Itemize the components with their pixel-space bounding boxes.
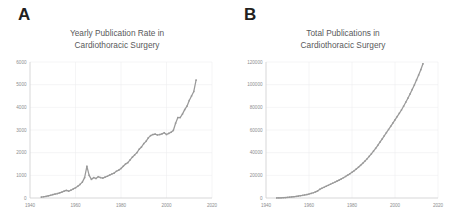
data-point-marker [116, 171, 118, 173]
data-point-marker [328, 185, 330, 187]
x-axis-tick-label: 2020 [433, 203, 444, 208]
data-point-marker [345, 176, 347, 178]
data-point-marker [399, 113, 401, 115]
data-point-marker [313, 192, 315, 194]
data-point-marker [166, 134, 168, 136]
data-point-marker [317, 190, 319, 192]
data-point-marker [163, 132, 165, 134]
data-point-marker [68, 190, 70, 192]
data-point-marker [154, 133, 156, 135]
data-point-marker [161, 133, 163, 135]
data-point-marker [293, 196, 295, 198]
data-point-marker [394, 119, 396, 121]
data-point-marker [88, 175, 90, 177]
data-point-marker [371, 153, 373, 155]
x-axis-tick-label: 1940 [261, 203, 272, 208]
y-axis-tick-label: 20000 [250, 173, 263, 178]
data-point-marker [104, 176, 106, 178]
data-point-marker [323, 187, 325, 189]
data-point-marker [349, 173, 351, 175]
data-point-marker [72, 188, 74, 190]
data-point-marker [61, 191, 63, 193]
y-axis-tick-label: 4000 [16, 105, 27, 110]
data-point-marker [184, 109, 186, 111]
y-axis-tick-label: 100000 [247, 82, 263, 87]
data-point-marker [102, 177, 104, 179]
data-point-marker [366, 158, 368, 160]
data-point-marker [148, 137, 150, 139]
data-point-marker [368, 156, 370, 158]
data-point-marker [306, 194, 308, 196]
chart-title-a-line2: Cardiothoracic Surgery [28, 39, 206, 51]
y-axis-tick-label: 120000 [247, 60, 263, 65]
data-point-marker [315, 191, 317, 193]
data-point-marker [291, 196, 293, 198]
data-point-marker [418, 74, 420, 76]
data-point-marker [409, 93, 411, 95]
data-point-marker [304, 194, 306, 196]
data-point-marker [66, 190, 68, 192]
data-point-marker [120, 168, 122, 170]
y-axis-tick-label: 1000 [16, 173, 27, 178]
data-point-marker [47, 195, 49, 197]
data-point-marker [159, 134, 161, 136]
data-point-marker [381, 138, 383, 140]
data-point-marker [70, 189, 72, 191]
data-point-marker [411, 89, 413, 91]
data-point-marker [379, 141, 381, 143]
chart-plot-b: 0200004000060000800001000001200001940196… [226, 52, 452, 220]
data-point-marker [278, 197, 280, 199]
data-point-marker [416, 79, 418, 81]
data-point-marker [41, 196, 43, 198]
y-axis-tick-label: 6000 [16, 60, 27, 65]
data-point-marker [98, 176, 100, 178]
data-point-marker [401, 109, 403, 111]
y-axis-tick-label: 2000 [16, 150, 27, 155]
data-point-marker [330, 183, 332, 185]
x-axis-tick-label: 1980 [116, 203, 127, 208]
data-point-marker [157, 134, 159, 136]
chart-title-b-line1: Total Publications in [254, 27, 432, 39]
data-series-line [277, 64, 423, 198]
y-axis-tick-label: 60000 [250, 128, 263, 133]
data-point-marker [390, 126, 392, 128]
data-point-marker [321, 187, 323, 189]
data-point-marker [111, 173, 113, 175]
data-point-marker [191, 95, 193, 97]
data-point-marker [360, 165, 362, 167]
data-point-marker [403, 105, 405, 107]
chart-title-a-line1: Yearly Publication Rate in [28, 27, 206, 39]
data-point-marker [84, 177, 86, 179]
x-axis-tick-label: 2000 [390, 203, 401, 208]
data-point-marker [152, 134, 154, 136]
data-point-marker [75, 187, 77, 189]
data-point-marker [405, 101, 407, 103]
data-point-marker [95, 178, 97, 180]
y-axis-tick-label: 3000 [16, 128, 27, 133]
data-point-marker [107, 175, 109, 177]
data-point-marker [91, 179, 93, 181]
data-point-marker [195, 79, 197, 81]
data-point-marker [193, 91, 195, 93]
data-point-marker [392, 122, 394, 124]
data-point-marker [336, 180, 338, 182]
panel-a: A Yearly Publication Rate in Cardiothora… [0, 0, 226, 223]
x-axis-tick-label: 1960 [70, 203, 81, 208]
data-point-marker [375, 148, 377, 150]
chart-title-b: Total Publications in Cardiothoracic Sur… [254, 27, 432, 51]
y-axis-tick-label: 5000 [16, 82, 27, 87]
x-axis-tick-label: 2000 [161, 203, 172, 208]
data-point-marker [150, 135, 152, 137]
data-point-marker [132, 156, 134, 158]
panel-letter-b: B [244, 6, 256, 23]
data-point-marker [93, 177, 95, 179]
y-axis-tick-label: 80000 [250, 105, 263, 110]
y-axis-tick-label: 0 [260, 196, 263, 201]
data-point-marker [298, 195, 300, 197]
data-point-marker [386, 132, 388, 134]
data-point-marker [353, 170, 355, 172]
y-axis-tick-label: 0 [24, 196, 27, 201]
data-point-marker [129, 159, 131, 161]
data-point-marker [308, 193, 310, 195]
data-point-marker [341, 178, 343, 180]
